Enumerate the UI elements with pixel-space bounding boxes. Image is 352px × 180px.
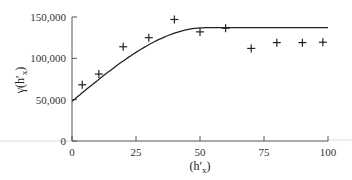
data-point-plus-icon bbox=[247, 44, 255, 52]
x-tick-label: 0 bbox=[69, 146, 75, 158]
y-tick-label: 100,000 bbox=[30, 52, 66, 64]
data-point-plus-icon bbox=[196, 28, 204, 36]
variogram-chart: 050,000100,000150,0000255075100 (h′x) γ(… bbox=[0, 0, 352, 180]
data-point-plus-icon bbox=[222, 24, 230, 32]
data-point-plus-icon bbox=[78, 81, 86, 89]
x-tick-label: 75 bbox=[259, 146, 271, 158]
data-point-plus-icon bbox=[119, 43, 127, 51]
data-point-plus-icon bbox=[298, 39, 306, 47]
data-markers bbox=[78, 15, 327, 88]
y-tick-label: 0 bbox=[61, 135, 67, 147]
data-point-plus-icon bbox=[145, 34, 153, 42]
data-point-plus-icon bbox=[319, 38, 327, 46]
y-axis-title: γ(h′x) bbox=[13, 67, 29, 94]
x-axis-title: (h′x) bbox=[189, 159, 210, 175]
y-tick-label: 50,000 bbox=[36, 94, 67, 106]
fitted-model-curve bbox=[72, 28, 328, 102]
tick-labels: 050,000100,000150,0000255075100 bbox=[30, 11, 337, 158]
y-tick-label: 150,000 bbox=[30, 11, 66, 23]
x-tick-label: 25 bbox=[131, 146, 143, 158]
x-tick-label: 100 bbox=[320, 146, 337, 158]
data-point-plus-icon bbox=[273, 39, 281, 47]
x-tick-label: 50 bbox=[195, 146, 207, 158]
data-point-plus-icon bbox=[170, 15, 178, 23]
